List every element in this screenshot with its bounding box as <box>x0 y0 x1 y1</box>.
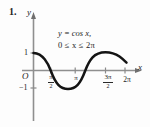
equation-line-2: 0 ≤ x ≤ 2π <box>58 39 95 51</box>
fraction-pi-half: π 2 <box>48 74 54 89</box>
y-axis-arrowhead <box>31 12 36 19</box>
x-tick-label-pi-half: π 2 <box>44 74 58 89</box>
x-tick-label-3pi-half: 3π 2 <box>99 74 117 89</box>
origin-label: O <box>22 72 29 81</box>
equation-line-1: y = cos x, <box>58 27 95 39</box>
problem-number: 1. <box>9 7 17 17</box>
y-tick-label-negative-one: −1 <box>19 84 28 92</box>
fraction-numerator: 3π <box>103 74 112 81</box>
fraction-numerator: π <box>48 74 54 81</box>
plot-canvas <box>0 0 150 127</box>
fraction-3pi-half: 3π 2 <box>103 74 112 89</box>
x-axis-label: x <box>138 63 142 72</box>
fraction-denominator: 2 <box>103 83 112 89</box>
cosine-graph-figure: 1. y x O 1 −1 y = cos x, 0 ≤ x ≤ 2π π 2 … <box>0 0 150 127</box>
x-tick-label-2pi: 2π <box>118 75 136 84</box>
y-axis-label: y <box>27 8 31 17</box>
y-tick-label-one: 1 <box>24 49 28 57</box>
x-tick-label-pi: π <box>70 74 82 82</box>
equation-annotation: y = cos x, 0 ≤ x ≤ 2π <box>58 27 95 52</box>
fraction-denominator: 2 <box>48 83 54 89</box>
